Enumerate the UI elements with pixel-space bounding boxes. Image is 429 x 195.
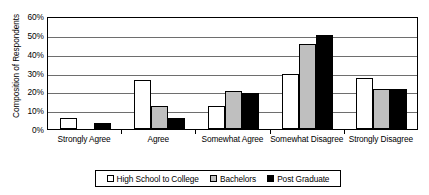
legend-label: Post Graduate [277, 174, 329, 184]
y-axis-tick-label: 10% [16, 107, 44, 116]
y-axis-tick-label: 40% [16, 50, 44, 59]
bar [94, 123, 111, 129]
bar [60, 118, 77, 129]
bar-group [122, 18, 196, 129]
x-axis-tick-label: Agree [121, 134, 195, 144]
bar-groups [48, 18, 417, 129]
x-axis-tick-label: Somewhat Disagree [270, 134, 344, 144]
bar [356, 78, 373, 129]
bar [316, 35, 333, 129]
legend-label: High School to College [117, 174, 199, 184]
bar-group [271, 18, 345, 129]
x-axis-tick-labels: Strongly AgreeAgreeSomewhat AgreeSomewha… [47, 134, 418, 160]
y-axis-tick-label: 60% [16, 13, 44, 22]
bar [390, 89, 407, 129]
legend-label: Bachelors [220, 174, 256, 184]
legend: High School to CollegeBachelorsPost Grad… [95, 170, 341, 187]
bar [168, 118, 185, 129]
legend-swatch-icon [210, 175, 217, 182]
y-axis-tick-labels: 0%10%20%30%40%50%60% [16, 12, 44, 135]
bar [242, 93, 259, 129]
bar-group [48, 18, 122, 129]
bar [208, 106, 225, 129]
x-axis-tick-label: Strongly Disagree [344, 134, 418, 144]
y-axis-tick-label: 0% [16, 126, 44, 135]
y-axis-tick-label: 20% [16, 88, 44, 97]
bar [225, 91, 242, 129]
bar [299, 44, 316, 129]
bar [134, 80, 151, 129]
y-axis-tick-label: 50% [16, 31, 44, 40]
plot-area [47, 17, 418, 130]
legend-entry: Bachelors [210, 174, 256, 184]
legend-entry: High School to College [107, 174, 199, 184]
legend-entry: Post Graduate [267, 174, 329, 184]
bar-chart: Composition of Respondents 0%10%20%30%40… [0, 0, 429, 195]
bar [282, 74, 299, 129]
y-axis-tick-label: 30% [16, 69, 44, 78]
bar-group [196, 18, 270, 129]
legend-swatch-icon [267, 175, 274, 182]
bar [151, 106, 168, 129]
bar-group [345, 18, 419, 129]
x-axis-tick-label: Somewhat Agree [195, 134, 269, 144]
legend-swatch-icon [107, 175, 114, 182]
x-axis-tick-label: Strongly Agree [47, 134, 121, 144]
bar [373, 89, 390, 129]
